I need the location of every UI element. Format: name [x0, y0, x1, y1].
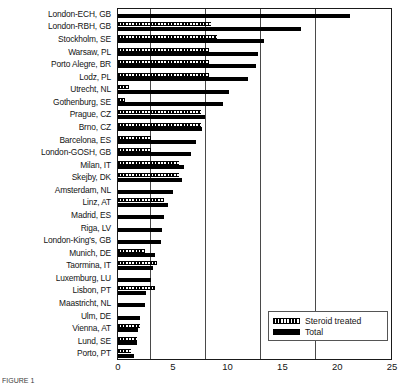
chart-legend: Steroid treated Total — [268, 311, 388, 341]
x-axis-tick-label: 5 — [170, 361, 175, 372]
y-axis-label: Maastricht, NL — [59, 299, 111, 308]
bar-total — [118, 253, 155, 257]
y-axis-label: Lodz, PL — [79, 73, 111, 82]
bar-total — [118, 228, 162, 232]
y-axis-label: Gothenburg, SE — [53, 98, 111, 107]
y-axis-label: Stockholm, SE — [58, 35, 111, 44]
bar-total — [118, 341, 137, 345]
x-axis-tick-label: 10 — [222, 361, 233, 372]
y-axis-label: Utrecht, NL — [70, 85, 111, 94]
bar-total — [118, 127, 202, 131]
y-axis-label: Lisbon, PT — [72, 286, 111, 295]
bar-total — [118, 316, 140, 320]
x-axis-tick-labels: 0510152025 — [0, 360, 403, 374]
bar-total — [118, 266, 153, 270]
x-axis-tick-label: 15 — [277, 361, 288, 372]
y-axis-label: Porto, PT — [77, 349, 111, 358]
bar-total — [118, 328, 138, 332]
y-axis-label: Warsaw, PL — [68, 48, 111, 57]
y-axis-label: Amsterdam, NL — [55, 186, 111, 195]
figure-bar-chart: London-ECH, GBLondon-RBH, GBStockholm, S… — [0, 0, 403, 385]
bar-total — [118, 203, 168, 207]
bar-total — [118, 291, 146, 295]
y-axis-label: Porto Alegre, BR — [51, 60, 111, 69]
legend-label-steroid-treated: Steroid treated — [305, 316, 361, 326]
y-axis-label: London-RBH, GB — [48, 22, 111, 31]
bar-total — [118, 77, 248, 81]
y-axis-label: Munich, DE — [69, 249, 111, 258]
bar-total — [118, 240, 161, 244]
bar-total — [118, 303, 145, 307]
y-axis-label: Riga, LV — [81, 224, 111, 233]
bar-total — [118, 39, 264, 43]
y-axis-label: Taormina, IT — [66, 261, 111, 270]
y-axis-label: Lund, SE — [78, 337, 111, 346]
bar-total — [118, 190, 173, 194]
bar-total — [118, 278, 151, 282]
y-axis-label: Linz, AT — [83, 198, 111, 207]
bar-total — [118, 27, 301, 31]
x-axis-tick-label: 20 — [332, 361, 343, 372]
bar-total — [118, 115, 205, 119]
bar-total — [118, 90, 229, 94]
legend-label-total: Total — [305, 327, 323, 337]
y-axis-label: Prague, CZ — [70, 110, 111, 119]
y-axis-label: Madrid, ES — [71, 211, 111, 220]
y-axis-label: London-ECH, GB — [48, 10, 111, 19]
bar-total — [118, 152, 191, 156]
hatched-bar-swatch-icon — [273, 318, 300, 324]
y-axis-label: Milan, IT — [80, 161, 111, 170]
y-axis-label: London-King's, GB — [44, 236, 112, 245]
bar-total — [118, 215, 164, 219]
bar-total — [118, 140, 196, 144]
legend-item-total: Total — [273, 326, 383, 337]
legend-item-steroid-treated: Steroid treated — [273, 315, 383, 326]
x-axis-tick-label: 0 — [115, 361, 120, 372]
y-axis-label: Brno, CZ — [79, 123, 111, 132]
y-axis-label: Vienna, AT — [72, 324, 111, 333]
y-axis-label: Barcelona, ES — [59, 136, 111, 145]
y-axis-label: Ulm, DE — [81, 312, 111, 321]
bar-total — [118, 165, 184, 169]
bar-total — [118, 14, 350, 18]
bar-total — [118, 102, 223, 106]
x-axis-tick-label: 25 — [387, 361, 398, 372]
solid-bar-swatch-icon — [273, 329, 300, 335]
bar-total — [118, 354, 134, 358]
y-axis-category-labels: London-ECH, GBLondon-RBH, GBStockholm, S… — [0, 8, 114, 360]
figure-caption: FIGURE 1 — [2, 377, 402, 385]
y-axis-label: London-GOSH, GB — [41, 148, 111, 157]
y-axis-label: Skejby, DK — [72, 173, 111, 182]
bar-group-container — [118, 8, 392, 360]
bar-total — [118, 178, 182, 182]
bar-total — [118, 52, 258, 56]
y-axis-label: Luxemburg, LU — [56, 274, 111, 283]
bar-total — [118, 64, 256, 68]
